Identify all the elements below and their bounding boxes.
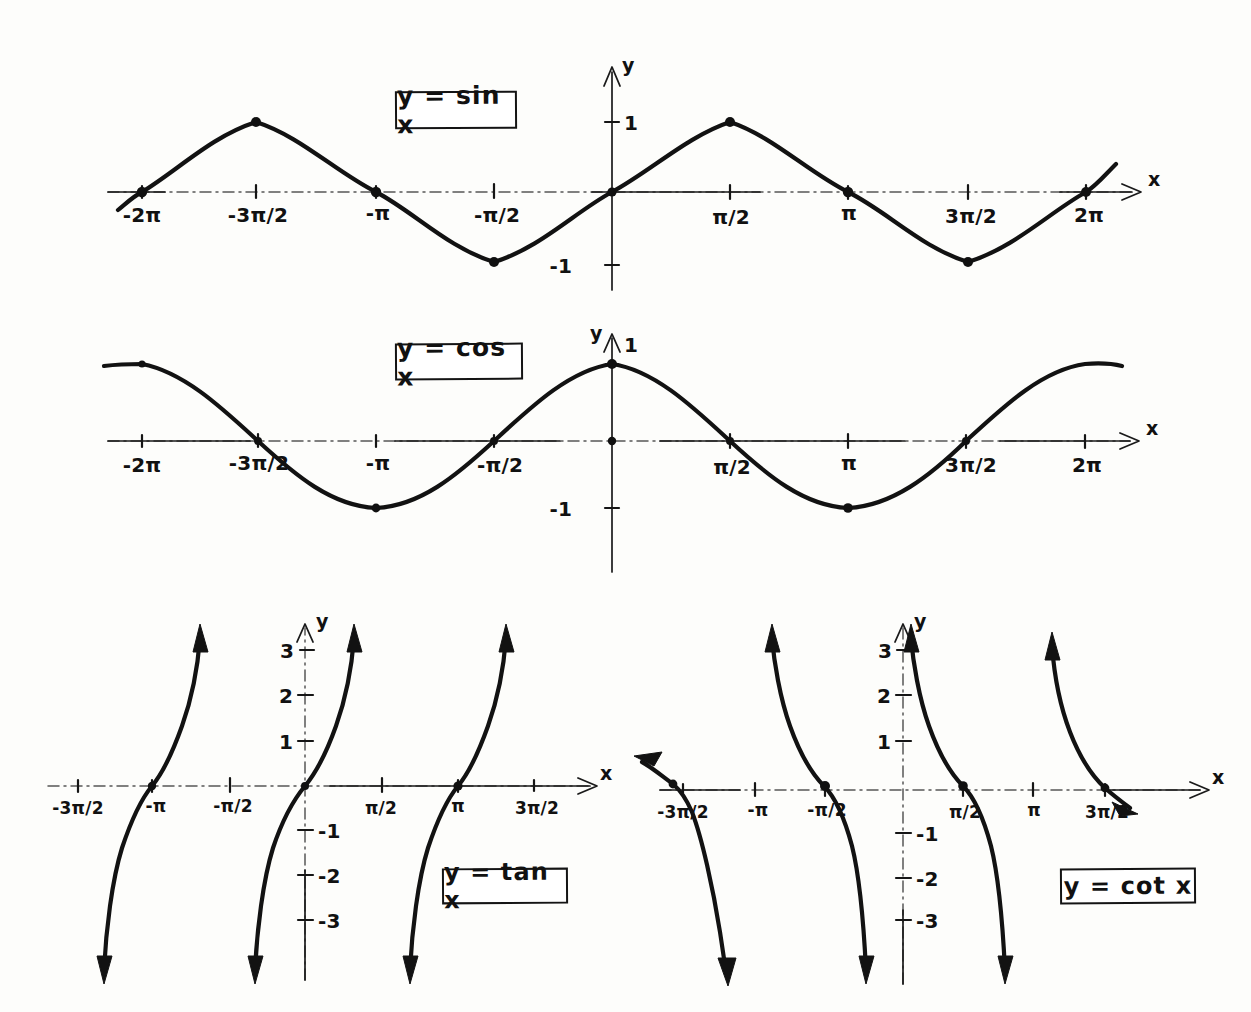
- cosine-y-tick-label-1: 1: [624, 333, 638, 357]
- chart-panel-sine: x y 1 -1: [0, 0, 1251, 300]
- tangent-chart-svg: x y 3 2 1 -1 -2 -3: [0, 580, 620, 1012]
- cosine-x-tick-label-6: 3π/2: [945, 453, 997, 477]
- cotangent-x-tick-label-4: π: [1027, 800, 1041, 820]
- cotangent-y-axis-label: y: [914, 610, 927, 632]
- equation-label-cotangent: y = cot x: [1060, 868, 1196, 905]
- cosine-x-axis: x: [108, 417, 1158, 449]
- cosine-x-axis-label: x: [1146, 417, 1158, 439]
- tangent-x-tick-label-0: -3π/2: [52, 798, 103, 818]
- sine-x-axis-label: x: [1148, 168, 1160, 190]
- tangent-y-tick-label-neg3: -3: [318, 909, 341, 933]
- cotangent-x-tick-labels: -3π/2 -π -π/2 π/2 π 3π/2: [657, 800, 1129, 822]
- tangent-y-axis-label: y: [316, 610, 329, 632]
- cotangent-y-tick-label-neg1: -1: [916, 822, 939, 846]
- cosine-x-tick-label-3: -π/2: [477, 453, 523, 477]
- tangent-x-tick-label-3: π/2: [365, 798, 397, 818]
- chart-panel-tangent: x y 3 2 1 -1 -2 -3: [0, 580, 620, 1012]
- tangent-y-tick-label-neg1: -1: [318, 819, 341, 843]
- cotangent-y-tick-label-1: 1: [877, 730, 891, 754]
- tangent-y-tick-label-neg2: -2: [318, 864, 341, 888]
- cosine-x-tick-label-4: π/2: [713, 455, 751, 479]
- sine-x-tick-labels: -2π -3π/2 -π -π/2 π/2 π 3π/2 2π: [123, 201, 1104, 229]
- chart-panel-cosine: x y 1 -1: [0, 300, 1251, 580]
- equation-label-cosine: y = cos x: [395, 343, 523, 381]
- tangent-x-tick-label-1: -π: [146, 796, 167, 816]
- tangent-x-tick-label-2: -π/2: [213, 796, 252, 816]
- equation-label-tangent: y = tan x: [442, 868, 568, 905]
- tangent-y-tick-label-2: 2: [279, 684, 293, 708]
- sine-x-tick-label-2: -π: [366, 201, 391, 225]
- worksheet-page: x y 1 -1: [0, 0, 1251, 1012]
- tangent-y-tick-label-3: 3: [280, 639, 294, 663]
- sine-x-tick-label-3: -π/2: [474, 203, 520, 227]
- cotangent-curve-branches: [634, 624, 1138, 986]
- cosine-x-tick-label-5: π: [841, 451, 857, 475]
- sine-y-tick-label-neg1: -1: [549, 254, 572, 278]
- sine-y-tick-label-1: 1: [624, 111, 638, 135]
- sine-y-axis: y: [604, 54, 635, 290]
- cotangent-x-axis: x: [660, 766, 1224, 798]
- tangent-x-axis: x: [48, 762, 612, 794]
- sine-x-tick-label-0: -2π: [123, 203, 162, 227]
- cosine-x-tick-label-2: -π: [366, 451, 391, 475]
- tangent-x-axis-label: x: [600, 762, 612, 784]
- sine-x-tick-label-1: -3π/2: [228, 203, 288, 227]
- sine-y-ticks: 1 -1: [549, 111, 638, 278]
- cotangent-x-tick-label-1: -π: [748, 800, 769, 820]
- cosine-y-axis: y: [590, 322, 620, 572]
- cosine-marked-points: [138, 359, 970, 513]
- sine-x-tick-label-5: π: [841, 201, 857, 225]
- sine-chart-svg: x y 1 -1: [0, 0, 1251, 300]
- cosine-y-axis-label: y: [590, 322, 603, 344]
- tangent-y-tick-label-1: 1: [279, 730, 293, 754]
- cosine-y-ticks: 1 -1: [549, 333, 638, 521]
- sine-x-axis: x: [108, 168, 1160, 200]
- cosine-chart-svg: x y 1 -1: [0, 300, 1251, 580]
- cosine-curve: [104, 363, 1122, 508]
- cotangent-x-axis-label: x: [1212, 766, 1224, 788]
- cotangent-y-tick-label-3: 3: [878, 639, 892, 663]
- sine-x-tick-label-4: π/2: [712, 205, 750, 229]
- cotangent-y-ticks: 3 2 1 -1 -2 -3: [877, 639, 939, 933]
- tangent-x-tick-label-5: 3π/2: [515, 798, 559, 818]
- cosine-x-tick-label-0: -2π: [123, 453, 162, 477]
- cotangent-y-tick-label-neg3: -3: [916, 909, 939, 933]
- chart-panel-cotangent: x y 3 2 1 -1 -2 -3: [620, 580, 1251, 1012]
- tangent-x-tick-label-4: π: [451, 796, 465, 816]
- sine-x-tick-label-7: 2π: [1074, 203, 1104, 227]
- sine-y-axis-label: y: [622, 54, 635, 76]
- cotangent-y-tick-label-neg2: -2: [916, 867, 939, 891]
- cotangent-x-tick-label-0: -3π/2: [657, 802, 708, 822]
- sine-x-tick-label-6: 3π/2: [945, 204, 997, 228]
- cotangent-chart-svg: x y 3 2 1 -1 -2 -3: [620, 580, 1251, 1012]
- cosine-x-tick-label-7: 2π: [1072, 453, 1102, 477]
- cosine-y-tick-label-neg1: -1: [549, 497, 572, 521]
- equation-label-sine: y = sin x: [395, 91, 517, 130]
- cotangent-y-tick-label-2: 2: [877, 684, 891, 708]
